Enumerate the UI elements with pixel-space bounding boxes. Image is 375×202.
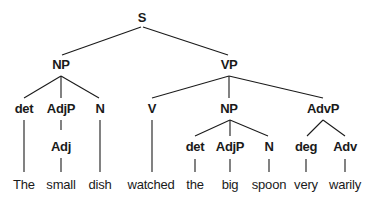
word-very: very <box>294 177 318 192</box>
node-adj-1: Adj <box>51 139 71 154</box>
node-advp: AdvP <box>307 101 339 116</box>
node-det-1: det <box>15 101 34 116</box>
node-np-object: NP <box>220 101 237 116</box>
word-warily: warily <box>329 177 361 192</box>
word-the-2: the <box>186 177 203 192</box>
word-dish: dish <box>88 177 111 192</box>
node-adv: Adv <box>333 139 357 154</box>
word-spoon: spoon <box>252 177 286 192</box>
node-s: S <box>138 10 146 25</box>
node-v: V <box>148 101 156 116</box>
word-the: The <box>13 177 35 192</box>
node-det-2: det <box>186 139 205 154</box>
word-big: big <box>222 177 239 192</box>
node-n-2: N <box>264 139 273 154</box>
word-watched: watched <box>127 177 174 192</box>
node-adjp-1: AdjP <box>47 101 75 116</box>
word-small: small <box>46 177 75 192</box>
node-deg: deg <box>295 139 317 154</box>
node-n-1: N <box>95 101 104 116</box>
node-adjp-2: AdjP <box>216 139 244 154</box>
node-vp: VP <box>221 57 238 72</box>
node-np-subject: NP <box>52 57 69 72</box>
